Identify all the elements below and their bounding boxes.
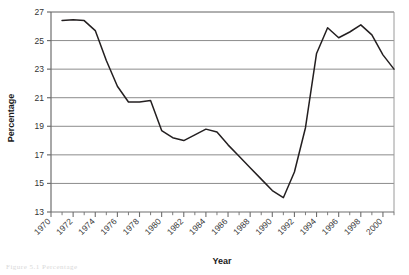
x-tick-label: 1996 xyxy=(320,216,341,237)
x-tick-label: 1994 xyxy=(298,216,319,237)
x-tick-label: 1982 xyxy=(165,216,186,237)
x-tick-label: 1990 xyxy=(253,216,274,237)
figure-container: 1315171921232527 19701972197419761978198… xyxy=(0,0,409,275)
line-chart: 1315171921232527 19701972197419761978198… xyxy=(0,0,409,275)
y-axis: 1315171921232527 xyxy=(35,7,51,217)
x-axis-ticks xyxy=(51,212,394,217)
y-tick-label: 17 xyxy=(35,150,45,160)
x-tick-label: 1986 xyxy=(209,216,230,237)
x-tick-label: 1984 xyxy=(187,216,208,237)
x-tick-label: 1970 xyxy=(32,216,53,237)
x-tick-label: 1998 xyxy=(342,216,363,237)
x-tick-label: 1972 xyxy=(54,216,75,237)
y-tick-label: 27 xyxy=(35,7,45,17)
x-axis-tick-labels: 1970197219741976197819801982198419861988… xyxy=(32,216,385,237)
x-tick-label: 2000 xyxy=(364,216,385,237)
y-tick-label: 13 xyxy=(35,207,45,217)
y-tick-label: 19 xyxy=(35,121,45,131)
x-tick-label: 1988 xyxy=(231,216,252,237)
y-tick-label: 25 xyxy=(35,36,45,46)
x-tick-label: 1992 xyxy=(275,216,296,237)
x-tick-label: 1974 xyxy=(76,216,97,237)
y-tick-label: 23 xyxy=(35,64,45,74)
y-axis-title: Percentage xyxy=(6,94,16,143)
y-tick-label: 15 xyxy=(35,178,45,188)
y-tick-label: 21 xyxy=(35,93,45,103)
x-tick-label: 1978 xyxy=(120,216,141,237)
x-axis-title: Year xyxy=(212,256,232,266)
figure-caption-fragment: Figure 5.1 Percentage xyxy=(6,263,78,271)
plot-area-background xyxy=(51,12,394,212)
x-tick-label: 1980 xyxy=(143,216,164,237)
x-tick-label: 1976 xyxy=(98,216,119,237)
